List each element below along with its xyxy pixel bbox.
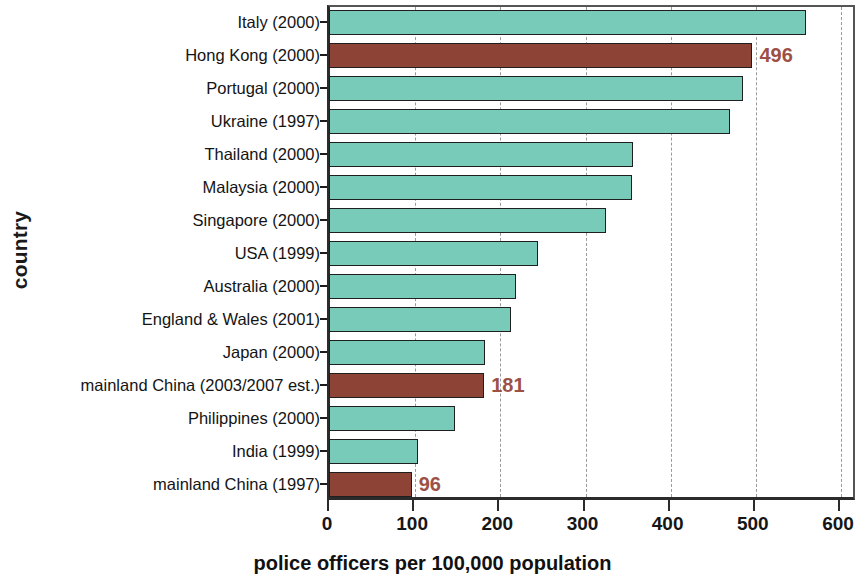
bar[interactable] (329, 241, 538, 266)
bar-row[interactable] (330, 238, 853, 270)
bar-row[interactable] (330, 139, 853, 171)
bar[interactable] (329, 439, 418, 464)
bar[interactable] (329, 109, 730, 134)
bar-series: 49618196 (330, 7, 853, 497)
y-tick-label: Hong Kong (2000) (185, 45, 321, 65)
y-axis-tick-labels: Italy (2000)Hong Kong (2000)Portugal (20… (30, 5, 321, 500)
x-tick-label: 500 (737, 513, 769, 535)
bar-row[interactable] (330, 271, 853, 303)
plot-area: 49618196 (327, 5, 855, 500)
x-tick-mark (583, 500, 585, 511)
bar[interactable] (329, 274, 516, 299)
y-tick-label: Portugal (2000) (206, 78, 321, 98)
y-tick-label: England & Wales (2001) (142, 309, 321, 329)
bar-row[interactable]: 96 (330, 469, 853, 501)
bar[interactable] (329, 472, 412, 497)
bar[interactable] (329, 142, 633, 167)
x-tick-label: 300 (567, 513, 599, 535)
bar-chart-screenshot: country Italy (2000)Hong Kong (2000)Port… (0, 0, 865, 581)
y-tick-label: mainland China (2003/2007 est.) (81, 375, 321, 395)
bar-row[interactable]: 181 (330, 370, 853, 402)
x-axis-title: police officers per 100,000 population (0, 552, 865, 575)
bar-value-label: 181 (484, 372, 524, 398)
y-tick-label: mainland China (1997) (153, 474, 321, 494)
y-tick-label: India (1999) (232, 441, 321, 461)
x-tick-mark (327, 500, 329, 511)
x-axis-tick-marks (327, 500, 855, 512)
bar[interactable] (329, 373, 484, 398)
bar-row[interactable] (330, 7, 853, 39)
bar[interactable] (329, 175, 632, 200)
bar[interactable] (329, 76, 743, 101)
y-tick-label: Italy (2000) (237, 12, 321, 32)
bar-row[interactable] (330, 106, 853, 138)
x-tick-mark (497, 500, 499, 511)
y-tick-label: Japan (2000) (223, 342, 321, 362)
bar[interactable] (329, 406, 455, 431)
bar-row[interactable] (330, 403, 853, 435)
y-tick-label: USA (1999) (235, 243, 321, 263)
x-tick-mark (668, 500, 670, 511)
bar[interactable] (329, 340, 485, 365)
x-tick-label: 600 (822, 513, 854, 535)
bar-row[interactable] (330, 73, 853, 105)
x-tick-mark (838, 500, 840, 511)
bar-value-label: 496 (752, 42, 792, 68)
y-tick-label: Ukraine (1997) (211, 111, 321, 131)
y-tick-label: Singapore (2000) (192, 210, 321, 230)
x-tick-label: 200 (481, 513, 513, 535)
bar-row[interactable] (330, 337, 853, 369)
bar-value-label: 96 (412, 471, 441, 497)
x-tick-label: 100 (396, 513, 428, 535)
y-tick-label: Thailand (2000) (204, 144, 321, 164)
bar[interactable] (329, 43, 752, 68)
bar-row[interactable] (330, 205, 853, 237)
x-tick-label: 0 (322, 513, 333, 535)
bar-row[interactable] (330, 436, 853, 468)
bar[interactable] (329, 208, 606, 233)
y-tick-label: Philippines (2000) (188, 408, 321, 428)
bar-row[interactable]: 496 (330, 40, 853, 72)
y-tick-label: Australia (2000) (204, 276, 321, 296)
bar[interactable] (329, 10, 806, 35)
bar-row[interactable] (330, 304, 853, 336)
x-tick-mark (753, 500, 755, 511)
x-tick-label: 400 (652, 513, 684, 535)
x-tick-mark (412, 500, 414, 511)
y-tick-label: Malaysia (2000) (203, 177, 321, 197)
bar[interactable] (329, 307, 511, 332)
y-axis-title-text: country (8, 211, 32, 289)
x-axis-title-text: police officers per 100,000 population (254, 552, 612, 574)
bar-row[interactable] (330, 172, 853, 204)
x-axis-tick-labels: 0100200300400500600 (327, 513, 855, 537)
